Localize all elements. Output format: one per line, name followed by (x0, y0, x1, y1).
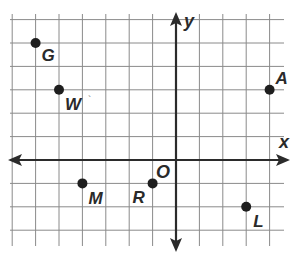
stray-mark: ` (88, 95, 91, 106)
point-L: L (241, 202, 263, 231)
point-label: L (253, 212, 263, 231)
points: GWAMRL (31, 38, 288, 231)
point-W: W (54, 85, 83, 114)
point-G: G (31, 38, 55, 65)
point-label: G (42, 46, 55, 65)
point-label: W (65, 95, 83, 114)
point-R: R (133, 178, 158, 207)
point-A: A (265, 69, 288, 95)
point-label: A (275, 69, 288, 88)
point-dot (77, 178, 87, 188)
point-label: M (88, 189, 103, 208)
point-dot (31, 38, 41, 48)
point-dot (265, 85, 275, 95)
point-dot (148, 178, 158, 188)
point-dot (54, 85, 64, 95)
point-label: R (133, 188, 146, 207)
origin-label: O (156, 162, 170, 182)
x-axis-label: x (278, 132, 290, 152)
y-axis-label: y (183, 11, 195, 31)
point-dot (241, 202, 251, 212)
coordinate-plane: x y O GWAMRL ` (0, 0, 295, 264)
